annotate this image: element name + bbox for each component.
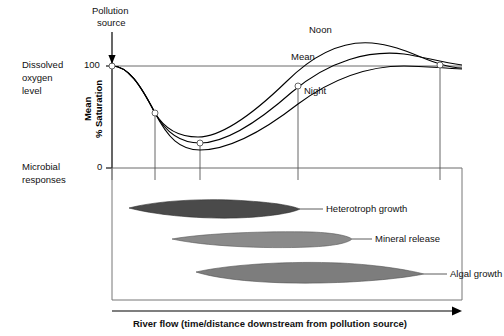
pollution-source-label-line1: Pollution — [92, 5, 128, 17]
data-marker-3 — [295, 83, 301, 89]
curve-night — [112, 66, 462, 150]
row-label-microbial-responses-line2: responses — [22, 174, 66, 186]
band-label-mineral-release: Mineral release — [375, 233, 440, 245]
curve-noon — [112, 43, 462, 137]
row-label-dissolved-oxygen-line2: oxygen — [22, 72, 53, 84]
y-axis-title-line2: % Saturation — [93, 80, 104, 138]
row-label-dissolved-oxygen-line1: Dissolved — [22, 59, 63, 71]
band-heterotroph-growth — [129, 200, 300, 218]
curve-label-mean: Mean — [291, 51, 315, 63]
data-marker-2 — [197, 140, 203, 146]
y-axis-title-line1: Mean — [82, 80, 93, 138]
row-label-dissolved-oxygen-line3: level — [22, 85, 42, 97]
data-marker-4 — [437, 62, 443, 68]
x-axis-arrow-head — [452, 307, 462, 316]
pollution-source-label-line2: source — [97, 17, 126, 29]
data-marker-1 — [152, 110, 158, 116]
figure-root: Dissolved oxygen level Microbial respons… — [0, 0, 504, 336]
y-tick-label-100: 100 — [84, 59, 100, 71]
band-algal-growth — [196, 262, 424, 283]
band-mineral-release — [172, 232, 352, 248]
curve-label-night: Night — [304, 85, 326, 97]
y-tick-label-0: 0 — [97, 161, 102, 173]
x-axis-caption: River flow (time/distance downstream fro… — [133, 318, 407, 330]
band-label-heterotroph-growth: Heterotroph growth — [326, 203, 407, 215]
diagram-canvas — [0, 0, 504, 336]
curve-label-noon: Noon — [309, 24, 332, 36]
pollution-source-arrow-head — [108, 55, 115, 64]
row-label-microbial-responses-line1: Microbial — [22, 161, 60, 173]
band-label-algal-growth: Algal growth — [450, 268, 502, 280]
y-axis-title: Mean % Saturation — [82, 80, 96, 138]
